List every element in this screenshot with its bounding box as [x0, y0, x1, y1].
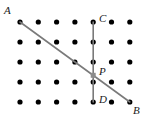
lattice-dot	[54, 99, 59, 104]
lattice-dot	[36, 19, 41, 24]
vertex-label-d: D	[99, 94, 107, 105]
lattice-dot	[36, 79, 41, 84]
lattice-dot	[109, 79, 114, 84]
lattice-dot	[54, 39, 59, 44]
lattice-dot	[109, 39, 114, 44]
lattice-dot	[72, 99, 77, 104]
lattice-dot	[72, 79, 77, 84]
lattice-dot	[54, 79, 59, 84]
lattice-dot	[109, 59, 114, 64]
lattice-dot	[17, 59, 22, 64]
lattice-dot	[17, 79, 22, 84]
lattice-dot	[17, 99, 22, 104]
lattice-dot	[72, 39, 77, 44]
lattice-dot	[127, 19, 132, 24]
lattice-dot	[36, 39, 41, 44]
lattice-dot	[127, 39, 132, 44]
lattice-dot	[72, 19, 77, 24]
vertex-label-b: B	[133, 105, 140, 116]
vertex-label-c: C	[99, 13, 106, 24]
lattice-dot	[109, 99, 114, 104]
lattice-dot	[127, 79, 132, 84]
lattice-dot	[109, 19, 114, 24]
lattice-dot	[54, 19, 59, 24]
point-p	[91, 73, 96, 78]
lattice-dot	[17, 39, 22, 44]
geometry-dot-lattice-figure: A C P D B	[0, 0, 149, 123]
figure-canvas	[0, 0, 149, 123]
vertex-label-p: P	[99, 66, 106, 77]
vertex-label-a: A	[4, 5, 11, 16]
intersection-point-marker	[91, 73, 96, 78]
lattice-dot	[127, 59, 132, 64]
lattice-dot	[54, 59, 59, 64]
lattice-dot	[36, 99, 41, 104]
lattice-dot	[36, 59, 41, 64]
